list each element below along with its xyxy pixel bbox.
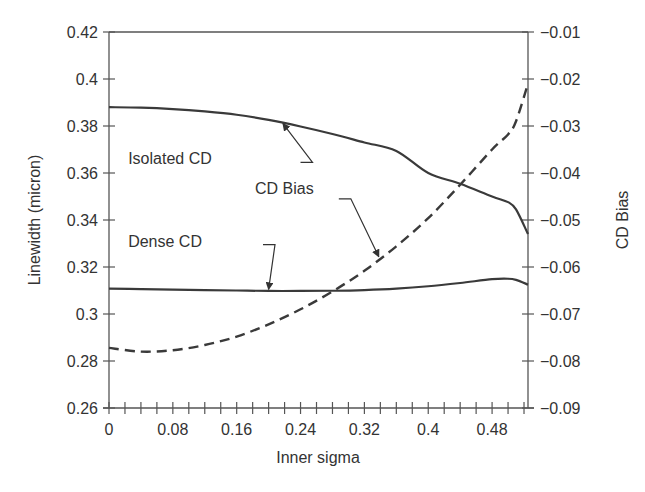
y-tick-label: 0.34 (67, 212, 98, 229)
x-tick-label: 0.16 (221, 421, 252, 438)
y2-tick-label: −0.08 (540, 353, 581, 370)
y-tick-label: 0.42 (67, 24, 98, 41)
y-tick-label: 0.28 (67, 353, 98, 370)
isolated-cd-label: Isolated CD (128, 150, 212, 167)
chart-container: 00.080.160.240.320.40.48 0.260.280.30.32… (0, 0, 645, 492)
cd-vs-inner-sigma-chart: 00.080.160.240.320.40.48 0.260.280.30.32… (0, 0, 645, 492)
x-tick-label: 0.48 (477, 421, 508, 438)
plot-frame (103, 32, 534, 408)
x-tick-label: 0.24 (285, 421, 316, 438)
y-tick-label: 0.36 (67, 165, 98, 182)
y-tick-label: 0.32 (67, 259, 98, 276)
dense-cd-line (109, 279, 528, 291)
y-tick-label: 0.26 (67, 400, 98, 417)
y2-axis-title: CD Bias (614, 191, 631, 250)
cd-bias-line (109, 84, 528, 352)
y2-tick-label: −0.09 (540, 400, 581, 417)
y-tick-label: 0.4 (76, 71, 98, 88)
dense-cd-label: Dense CD (128, 233, 202, 250)
y2-tick-label: −0.05 (540, 212, 581, 229)
y-tick-label: 0.38 (67, 118, 98, 135)
y-axis-title: Linewidth (micron) (26, 155, 43, 286)
y2-tick-label: −0.03 (540, 118, 581, 135)
isolated-cd-arrow (283, 124, 313, 163)
y-axis-ticks: 0.260.280.30.320.340.360.380.40.42 (67, 24, 115, 417)
x-tick-label: 0.32 (349, 421, 380, 438)
x-axis-title: Inner sigma (276, 449, 360, 466)
annotations: Isolated CDDense CDCD Bias (128, 124, 379, 290)
cd-bias-label: CD Bias (255, 180, 314, 197)
dense-cd-arrow (263, 245, 275, 290)
cd-bias-arrow (339, 199, 379, 257)
y2-tick-label: −0.04 (540, 165, 581, 182)
y2-tick-label: −0.07 (540, 306, 581, 323)
y2-tick-label: −0.01 (540, 24, 581, 41)
x-tick-label: 0.4 (417, 421, 439, 438)
y-tick-label: 0.3 (76, 306, 98, 323)
isolated-cd-line (109, 107, 528, 234)
data-series (109, 84, 528, 352)
y2-tick-label: −0.02 (540, 71, 581, 88)
y2-tick-label: −0.06 (540, 259, 581, 276)
y2-axis-ticks: −0.09−0.08−0.07−0.06−0.05−0.04−0.03−0.02… (522, 24, 581, 417)
x-tick-label: 0.08 (157, 421, 188, 438)
x-tick-label: 0 (105, 421, 114, 438)
